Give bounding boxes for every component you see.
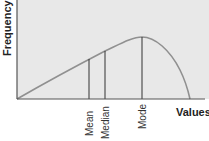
x-axis-title: Values	[176, 106, 209, 118]
median-label: Median	[100, 106, 111, 139]
skewed-distribution-diagram: Frequency Values Mean Median Mode	[0, 0, 209, 141]
plot-area	[17, 0, 209, 99]
mode-label: Mode	[137, 104, 148, 129]
mean-label: Mean	[84, 111, 95, 136]
y-axis-title: Frequency	[1, 0, 13, 56]
